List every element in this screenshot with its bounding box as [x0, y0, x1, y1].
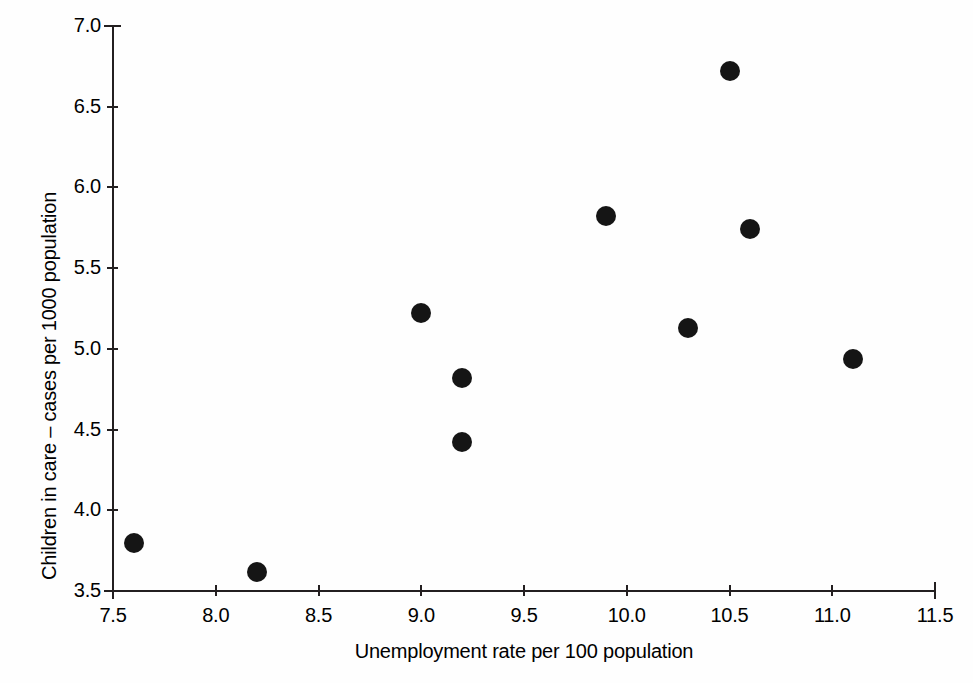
- data-point: [678, 318, 698, 338]
- data-point: [843, 349, 863, 369]
- y-tick-label: 7.0: [41, 15, 101, 35]
- x-tick-mark: [215, 585, 217, 596]
- x-tick-mark: [318, 585, 320, 596]
- x-tick-label: 8.0: [186, 605, 246, 625]
- x-tick-label: 9.0: [391, 605, 451, 625]
- x-tick-label: 8.5: [289, 605, 349, 625]
- x-tick-mark: [112, 582, 114, 599]
- y-tick-mark: [107, 267, 118, 269]
- x-tick-label: 11.0: [802, 605, 862, 625]
- x-axis-title: Unemployment rate per 100 population: [112, 640, 936, 663]
- x-tick-label: 11.5: [905, 605, 965, 625]
- y-axis-title: Children in care – cases per 1000 popula…: [38, 192, 61, 580]
- data-point: [124, 533, 144, 553]
- data-point: [740, 219, 760, 239]
- x-tick-label: 10.0: [597, 605, 657, 625]
- data-point: [452, 368, 472, 388]
- data-point: [596, 206, 616, 226]
- y-tick-mark: [107, 429, 118, 431]
- x-tick-mark: [831, 585, 833, 596]
- data-point: [452, 432, 472, 452]
- x-tick-label: 10.5: [700, 605, 760, 625]
- y-tick-mark: [107, 106, 118, 108]
- scatter-plot-figure: 3.54.04.55.05.56.06.57.0 7.58.08.59.09.5…: [0, 0, 973, 683]
- y-tick-label: 6.5: [41, 96, 101, 116]
- x-tick-mark: [420, 585, 422, 596]
- x-tick-mark: [934, 582, 936, 599]
- x-tick-mark: [729, 585, 731, 596]
- plot-area: 3.54.04.55.05.56.06.57.0 7.58.08.59.09.5…: [0, 0, 973, 683]
- y-tick-mark: [107, 509, 118, 511]
- y-axis-line: [112, 26, 114, 592]
- y-tick-mark: [107, 186, 118, 188]
- data-point: [411, 303, 431, 323]
- x-tick-mark: [626, 585, 628, 596]
- x-tick-mark: [523, 585, 525, 596]
- x-tick-label: 7.5: [83, 605, 143, 625]
- y-tick-mark: [104, 25, 121, 27]
- data-point: [247, 562, 267, 582]
- y-tick-label: 3.5: [41, 580, 101, 600]
- y-tick-mark: [107, 348, 118, 350]
- data-point: [720, 61, 740, 81]
- x-tick-label: 9.5: [494, 605, 554, 625]
